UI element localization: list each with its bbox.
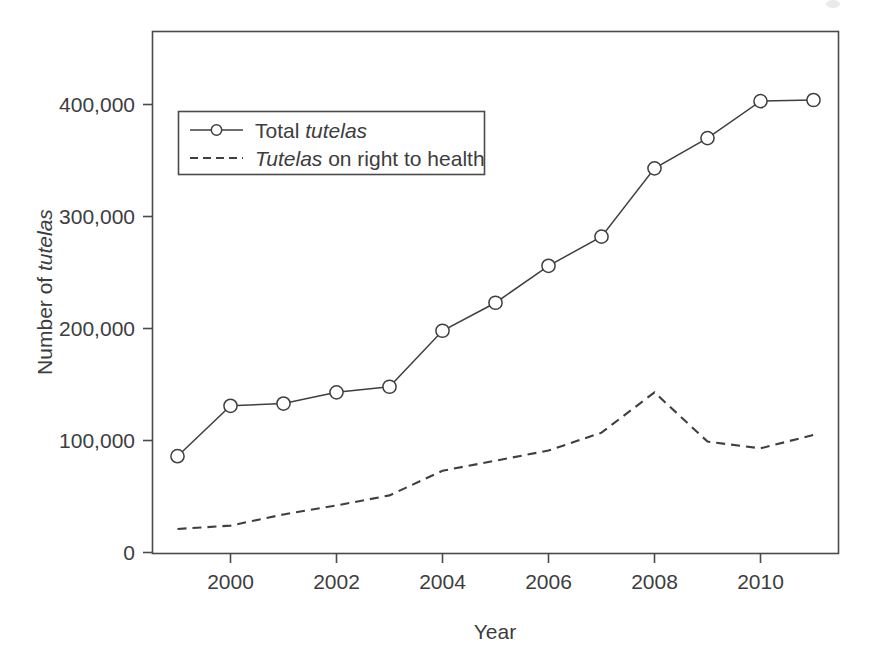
- x-tick-label: 2002: [313, 570, 360, 593]
- y-axis-ticks: [143, 105, 152, 553]
- figure-canvas: 0 100,000 200,000 300,000 400,000 2000 2…: [0, 0, 869, 664]
- scan-artifact: [826, 0, 840, 8]
- y-tick-label: 0: [123, 541, 135, 564]
- data-point-marker: [754, 95, 767, 108]
- legend-label-total-italic: tutelas: [305, 119, 367, 142]
- data-point-marker: [595, 230, 608, 243]
- y-tick-label: 300,000: [59, 205, 135, 228]
- data-point-marker: [489, 296, 502, 309]
- line-chart: 0 100,000 200,000 300,000 400,000 2000 2…: [0, 0, 869, 664]
- y-axis-title-prefix: Number of: [33, 271, 56, 375]
- data-point-marker: [701, 132, 714, 145]
- data-point-marker: [171, 450, 184, 463]
- data-point-marker: [648, 162, 661, 175]
- plot-frame: [153, 32, 839, 554]
- legend-label-health: Tutelas on right to health: [255, 147, 485, 170]
- y-axis-title-italic: tutelas: [33, 209, 56, 271]
- legend-marker-circle-icon: [211, 125, 221, 135]
- x-tick-label: 2006: [525, 570, 572, 593]
- series-line-health: [178, 392, 814, 529]
- legend: Total tutelas Tutelas on right to health: [179, 112, 485, 175]
- legend-label-health-italic: Tutelas: [255, 147, 323, 170]
- data-point-marker: [542, 259, 555, 272]
- x-tick-label: 2008: [631, 570, 678, 593]
- y-axis-title: Number of tutelas: [33, 209, 56, 375]
- y-tick-label: 200,000: [59, 317, 135, 340]
- x-tick-label: 2000: [207, 570, 254, 593]
- x-axis-title: Year: [474, 620, 516, 643]
- x-axis-ticks: [231, 554, 761, 563]
- legend-label-health-suffix: on right to health: [322, 147, 484, 170]
- x-tick-label: 2004: [419, 570, 466, 593]
- x-tick-label: 2010: [737, 570, 784, 593]
- data-point-marker: [330, 386, 343, 399]
- y-tick-label: 100,000: [59, 429, 135, 452]
- legend-label-total: Total tutelas: [255, 119, 368, 142]
- legend-label-total-prefix: Total: [255, 119, 305, 142]
- data-point-marker: [383, 380, 396, 393]
- y-axis-tick-labels: 0 100,000 200,000 300,000 400,000: [59, 93, 135, 564]
- y-tick-label: 400,000: [59, 93, 135, 116]
- x-axis-tick-labels: 2000 2002 2004 2006 2008 2010: [207, 570, 784, 593]
- x-axis-title-text: Year: [474, 620, 516, 643]
- data-point-marker: [277, 397, 290, 410]
- data-point-marker: [807, 93, 820, 106]
- data-point-marker: [436, 324, 449, 337]
- data-point-marker: [224, 399, 237, 412]
